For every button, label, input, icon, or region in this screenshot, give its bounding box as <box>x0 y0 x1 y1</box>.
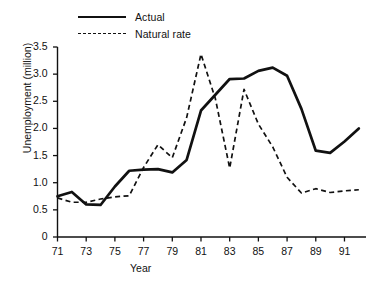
series-line-natural-rate <box>58 54 359 202</box>
series-line-actual <box>58 68 359 205</box>
plot-area <box>0 0 376 281</box>
unemployment-line-chart: Actual Natural rate Unemployment (millio… <box>0 0 376 281</box>
axis-tick-marks <box>53 47 344 242</box>
